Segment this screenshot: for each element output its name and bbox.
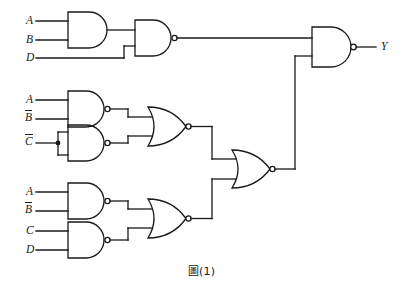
nand-gate-nc-inv	[68, 125, 104, 161]
nor-gate-n5-n8	[232, 150, 270, 188]
logic-circuit-diagram	[0, 0, 403, 297]
nor-gate-n3-n4-bubble	[186, 124, 191, 129]
input-label-d1: D	[26, 52, 34, 64]
input-label-d3: D	[26, 244, 34, 256]
nand-gate-a-nb-bubble	[105, 106, 110, 111]
input-label-nc2: C	[25, 134, 33, 147]
nand-gate-output-y	[312, 27, 351, 67]
nand-gate-a-nb-2-bubble	[105, 198, 110, 203]
nand-gate-c-d	[68, 222, 104, 258]
input-label-nb3: B	[25, 202, 32, 215]
and-gate-ab	[68, 12, 107, 48]
nand-gate-n1-d-bubble	[172, 35, 177, 40]
input-label-nb2: B	[25, 110, 32, 123]
nand-gate-n1-d	[135, 20, 171, 56]
nor-gate-n6-n7	[148, 199, 186, 238]
input-label-a2: A	[26, 94, 33, 106]
input-label-b1: B	[26, 34, 33, 46]
nand-gate-nc-inv-bubble	[105, 140, 110, 145]
nand-gate-a-nb	[68, 91, 104, 127]
input-label-c3: C	[26, 225, 34, 237]
nand-gate-a-nb-2	[68, 183, 104, 219]
nor-gate-n3-n4	[148, 107, 186, 146]
nor-gate-n6-n7-bubble	[186, 216, 191, 221]
input-label-a3: A	[26, 186, 33, 198]
figure-container: A B D A B C A B C D Y 圖(1)	[0, 0, 403, 297]
nand-gate-c-d-bubble	[105, 237, 110, 242]
input-label-a1: A	[26, 15, 33, 27]
output-label-y: Y	[381, 41, 387, 53]
figure-caption: 圖(1)	[0, 262, 403, 278]
nor-gate-n5-n8-bubble	[270, 166, 275, 171]
